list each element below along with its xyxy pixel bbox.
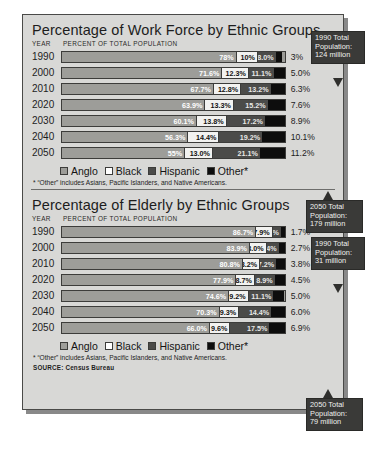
- bar-segment-other: [262, 132, 284, 143]
- header-percent: PERCENT OF TOTAL POPULATION: [63, 40, 334, 47]
- other-value-label: 8.9%: [286, 113, 334, 129]
- bar-segment-other: [276, 52, 283, 63]
- bar-segment-value: 15.2%: [245, 101, 267, 110]
- other-value-label: 6.3%: [286, 81, 334, 97]
- row-year-label: 2030: [32, 288, 61, 304]
- row-year-label: 1990: [32, 224, 61, 240]
- bar-segment-other: [265, 116, 285, 127]
- bar-segment-black: 13.0%: [184, 148, 213, 159]
- bar-segment-black: 12.8%: [213, 84, 241, 95]
- row-year-label: 2010: [32, 81, 61, 97]
- bar-segment-anglo: 63.9%: [62, 100, 204, 111]
- bar-segment-value: 10%: [241, 53, 257, 62]
- chart-elderly: Percentage of Elderly by Ethnic Groups Y…: [23, 190, 343, 371]
- bar-segment-value: 5.4%: [267, 244, 279, 253]
- bar-segment-hispanic: 21.1%: [213, 148, 260, 159]
- bar-segment-value: 13.8%: [203, 117, 225, 126]
- infographic-page: Percentage of Work Force by Ethnic Group…: [0, 0, 376, 454]
- row-year-label: 2010: [32, 256, 61, 272]
- bar-segment-value: 83.9%: [226, 244, 248, 253]
- bar-segment-black: 13.3%: [204, 100, 234, 111]
- bar-segment-hispanic: 11.1%: [249, 291, 274, 302]
- other-value-label: 5.0%: [286, 288, 334, 304]
- bar-segment-value: 70.3%: [196, 308, 218, 317]
- legend-label-anglo: Anglo: [71, 165, 98, 177]
- bar-segment-value: 56.3%: [165, 133, 187, 142]
- bar-segment-hispanic: 17.2%: [227, 116, 265, 127]
- legend-swatch-hispanic-icon: [148, 167, 156, 175]
- bar-segment-black: 13.8%: [196, 116, 227, 127]
- bar-segment-anglo: 66.0%: [62, 323, 209, 334]
- callout-pointer-work-force-1990: [333, 78, 343, 87]
- bar-segment-black: 9.6%: [209, 323, 230, 334]
- chart-work-force: Percentage of Work Force by Ethnic Group…: [23, 15, 343, 186]
- stacked-bar: 78%10%8.0%: [61, 51, 285, 64]
- bar-segment-hispanic: 17.5%: [230, 323, 269, 334]
- bar-segment-other: [273, 291, 284, 302]
- column-headers-elderly: YEAR PERCENT OF TOTAL POPULATION: [32, 215, 334, 224]
- row-year-label: 2030: [32, 113, 61, 129]
- legend-item-anglo: Anglo: [60, 165, 98, 177]
- bar-segment-value: 7.2%: [260, 260, 276, 269]
- row-year-label: 2000: [32, 240, 61, 256]
- table-row: 200071.6%12.3%11.1%5.0%: [32, 65, 334, 81]
- callout-line-3: 124 million: [315, 51, 361, 60]
- callout-pointer-elderly-2050: [323, 389, 333, 398]
- legend-elderly: Anglo Black Hispanic Other*: [32, 336, 334, 353]
- bar-segment-value: 14.4%: [196, 133, 218, 142]
- legend-swatch-anglo-icon: [60, 167, 68, 175]
- bar-segment-anglo: 77.9%: [62, 275, 235, 286]
- table-row: 200083.9%8.0%5.4%2.7%: [32, 240, 334, 256]
- bar-segment-anglo: 67.7%: [62, 84, 213, 95]
- bar-segment-value: 19.2%: [240, 133, 262, 142]
- bar-segment-anglo: 55%: [62, 148, 184, 159]
- bar-segment-hispanic: 5.4%: [267, 243, 279, 254]
- bar-segment-value: 21.1%: [237, 149, 259, 158]
- bar-segment-other: [275, 275, 285, 286]
- header-percent: PERCENT OF TOTAL POPULATION: [63, 215, 334, 222]
- row-year-label: 2050: [32, 320, 61, 336]
- bar-rows-elderly: 199086.7%7.9%3.7%1.7%200083.9%8.0%5.4%2.…: [32, 224, 334, 336]
- legend-swatch-other-icon: [207, 167, 215, 175]
- other-value-label: 6.9%: [286, 320, 334, 336]
- legend-item-hispanic: Hispanic: [148, 340, 199, 352]
- bar-segment-other: [276, 259, 284, 270]
- bar-segment-black: 9.3%: [219, 307, 240, 318]
- table-row: 202063.9%13.3%15.2%7.6%: [32, 97, 334, 113]
- bar-segment-hispanic: 8.9%: [255, 275, 275, 286]
- bar-segment-value: 13.2%: [248, 85, 270, 94]
- callout-elderly-2050: 2050 Total Population: 79 million: [306, 398, 363, 431]
- callout-line-3: 79 million: [310, 418, 359, 427]
- bar-segment-hispanic: 14.4%: [239, 307, 271, 318]
- header-year: YEAR: [32, 40, 63, 47]
- bar-segment-other: [269, 323, 284, 334]
- chart-title-work-force: Percentage of Work Force by Ethnic Group…: [32, 15, 334, 40]
- bar-segment-value: 80.8%: [220, 260, 242, 269]
- bar-segment-value: 9.6%: [211, 324, 229, 333]
- other-value-label: 5.0%: [286, 65, 334, 81]
- stacked-bar: 71.6%12.3%11.1%: [61, 67, 285, 80]
- bar-segment-other: [260, 148, 285, 159]
- bar-segment-other: [279, 243, 285, 254]
- bar-segment-anglo: 74.6%: [62, 291, 228, 302]
- legend-label-black: Black: [116, 340, 142, 352]
- legend-item-black: Black: [105, 165, 142, 177]
- stacked-bar: 67.7%12.8%13.2%: [61, 83, 285, 96]
- stacked-bar: 74.6%9.2%11.1%: [61, 290, 285, 303]
- bar-rows-work-force: 199078%10%8.0%3%200071.6%12.3%11.1%5.0%2…: [32, 49, 334, 161]
- bar-segment-black: 12.3%: [221, 68, 248, 79]
- bar-segment-anglo: 78%: [62, 52, 235, 63]
- table-row: 199078%10%8.0%3%: [32, 49, 334, 65]
- bar-segment-value: 63.9%: [182, 101, 204, 110]
- bar-segment-black: 14.4%: [187, 132, 219, 143]
- legend-item-anglo: Anglo: [60, 340, 98, 352]
- bar-segment-value: 74.6%: [206, 292, 228, 301]
- bar-segment-hispanic: 19.2%: [219, 132, 262, 143]
- legend-work-force: Anglo Black Hispanic Other*: [32, 161, 334, 178]
- legend-label-other: Other*: [218, 165, 248, 177]
- bar-segment-value: 13.3%: [211, 101, 233, 110]
- callout-pointer-elderly-1990: [333, 284, 343, 293]
- bar-segment-value: 8.9%: [256, 276, 274, 285]
- other-value-label: 10.1%: [286, 129, 334, 145]
- bar-segment-value: 9.2%: [229, 292, 247, 301]
